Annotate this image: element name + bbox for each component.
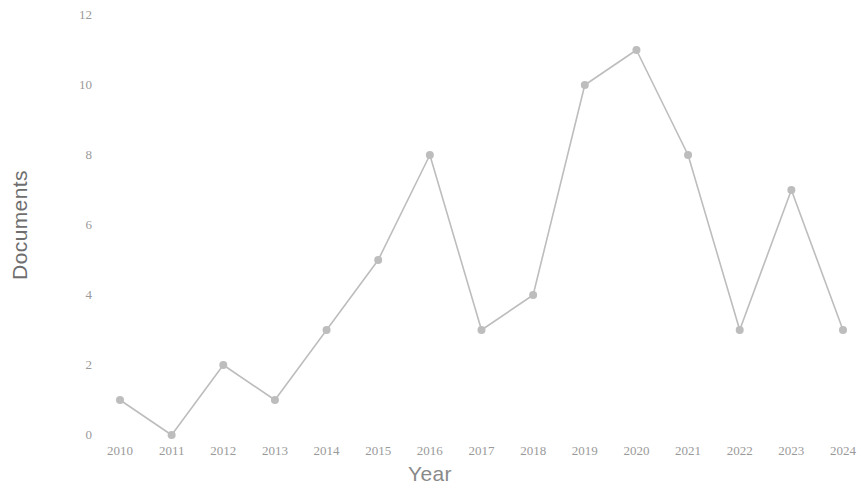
x-tick-label: 2024: [813, 443, 860, 459]
line-chart: Documents 024681012 20102011201220132014…: [0, 0, 860, 495]
x-axis-title: Year: [0, 462, 860, 486]
x-axis-tick-labels: 2010201120122013201420152016201720182019…: [0, 0, 860, 495]
